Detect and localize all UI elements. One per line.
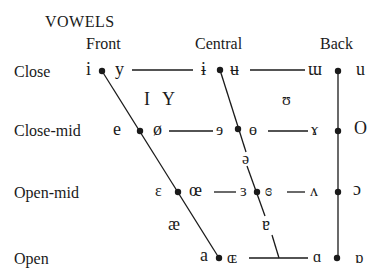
- vowel-open-mid-central-unrounded: ɜ: [240, 183, 247, 199]
- vowel-trapezoid: [0, 0, 383, 279]
- dot-close-back: [335, 68, 341, 74]
- vowel-close-mid-front-unrounded: e: [113, 120, 121, 138]
- vowel-near-open-central: ɐ: [262, 215, 270, 233]
- vowel-open-back-unrounded: ɑ: [313, 249, 321, 265]
- dot-open-mid-central: [254, 189, 260, 195]
- vowel-close-front-unrounded: i: [86, 60, 91, 78]
- vowel-close-central-unrounded: ɨ: [201, 60, 206, 78]
- vowel-close-back-rounded: u: [356, 60, 365, 78]
- dot-close-central: [217, 67, 223, 73]
- dot-open-back: [334, 255, 340, 261]
- front-edge-line: [102, 71, 219, 258]
- vowel-open-mid-back-unrounded: ʌ: [310, 183, 318, 199]
- vowel-close-mid-central-unrounded: ɘ: [216, 122, 223, 138]
- dot-open-mid-front: [175, 189, 181, 195]
- vowel-close-mid-back-rounded: O: [354, 119, 367, 137]
- central-line-upper: [220, 70, 246, 152]
- dot-open-front: [216, 255, 222, 261]
- dot-open-mid-back: [335, 189, 341, 195]
- vowel-near-close-back-rounded: ʊ: [282, 92, 291, 108]
- vowel-near-close-front-unrounded: I: [144, 90, 150, 108]
- vowel-close-back-unrounded: ɯ: [308, 60, 322, 78]
- dot-close-mid-back: [335, 128, 341, 134]
- vowel-open-mid-front-unrounded: ɛ: [155, 183, 162, 199]
- vowel-close-mid-front-rounded: ø: [153, 120, 162, 138]
- vowel-open-mid-front-rounded: œ: [189, 181, 202, 199]
- vowel-open-back-rounded: ɒ: [355, 250, 363, 266]
- dot-close-mid-central: [235, 126, 241, 132]
- vowel-close-mid-central-rounded: ɵ: [249, 122, 257, 138]
- vowel-near-open-front: æ: [168, 215, 180, 233]
- vowel-near-close-front-rounded: Y: [162, 90, 175, 108]
- vowel-open-mid-central-rounded: ɞ: [265, 183, 272, 199]
- vowel-close-mid-back-unrounded: ɤ: [311, 122, 318, 138]
- central-line-lower: [272, 235, 279, 258]
- vowel-open-front-rounded: ɶ: [227, 250, 237, 266]
- vowel-mid-central: ə: [242, 151, 249, 167]
- vowel-open-mid-back-rounded: ɔ: [353, 180, 361, 198]
- vowel-close-front-rounded: y: [115, 60, 124, 78]
- vowel-open-front-unrounded: a: [200, 246, 208, 264]
- dot-close-front: [99, 68, 105, 74]
- dot-close-mid-front: [137, 128, 143, 134]
- vowel-close-central-rounded: ʉ: [230, 60, 239, 78]
